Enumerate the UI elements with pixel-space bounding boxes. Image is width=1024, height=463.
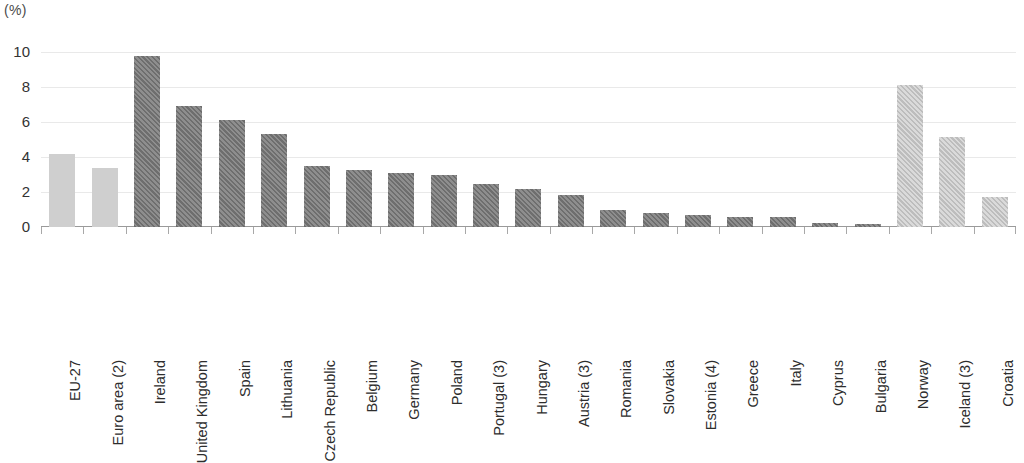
axis-tick [1015,227,1016,234]
axis-tick [295,227,296,234]
axis-tick [465,227,466,234]
category-label: Spain [238,360,253,397]
bar[interactable] [388,173,414,227]
axis-tick [126,227,127,234]
bar-slot [804,52,846,227]
axis-tick [507,227,508,234]
axis-tick [338,227,339,234]
bar[interactable] [727,217,753,228]
bar-slot [168,52,210,227]
x-axis-ticks [41,227,1016,235]
y-axis-tick-label: 8 [2,78,30,95]
category-label: Ireland [153,360,168,404]
axis-tick [762,227,763,234]
axis-tick [719,227,720,234]
category-label: Poland [450,360,465,405]
category-label: Austria (3) [577,360,592,427]
bar[interactable] [92,168,118,227]
axis-tick [380,227,381,234]
category-labels: EU-27Euro area (2)IrelandUnited KingdomS… [41,236,1016,364]
category-label: Iceland (3) [958,360,973,429]
bar[interactable] [304,166,330,227]
y-axis-tick-label: 2 [2,183,30,200]
y-axis-tick-label: 0 [2,218,30,235]
bar-slot [719,52,761,227]
axis-tick [41,227,42,234]
bar-slot [846,52,888,227]
bar[interactable] [176,106,202,227]
axis-tick [634,227,635,234]
category-label: Estonia (4) [704,360,719,430]
category-label: Romania [619,360,634,418]
bar[interactable] [600,210,626,227]
bar-slot [211,52,253,227]
bar-slot [126,52,168,227]
axis-tick [677,227,678,234]
bar-slot [338,52,380,227]
bar[interactable] [770,217,796,227]
axis-tick [550,227,551,234]
bar-slot [253,52,295,227]
axis-tick [592,227,593,234]
bar[interactable] [261,134,287,227]
category-label: Cyprus [831,360,846,406]
bar[interactable] [134,56,160,227]
bar-slot [762,52,804,227]
bar-slot [634,52,676,227]
bar[interactable] [49,154,75,228]
axis-tick [83,227,84,234]
bar-slot [465,52,507,227]
y-axis-tick-label: 4 [2,148,30,165]
bar-slot [380,52,422,227]
bar-slot [974,52,1016,227]
bar-slot [550,52,592,227]
bar-slot [295,52,337,227]
bar[interactable] [219,120,245,227]
bar-slot [677,52,719,227]
bar[interactable] [685,215,711,227]
bar[interactable] [473,184,499,227]
bar[interactable] [515,189,541,227]
bar[interactable] [897,85,923,227]
bar-slot [931,52,973,227]
category-label: Germany [407,360,422,420]
bar-slot [889,52,931,227]
axis-tick [253,227,254,234]
y-axis-tick-label: 6 [2,113,30,130]
bar-series [41,52,1016,227]
bar[interactable] [643,213,669,227]
axis-tick [846,227,847,234]
category-label: Euro area (2) [111,360,126,445]
category-label: EU-27 [68,360,83,401]
category-label: United Kingdom [195,360,210,463]
category-label: Croatia [1001,360,1016,407]
category-label: Greece [746,360,761,408]
category-label: Czech Republic [323,360,338,462]
bar[interactable] [346,170,372,227]
category-label: Norway [916,360,931,409]
bar-slot [41,52,83,227]
bar-slot [592,52,634,227]
category-label: Slovakia [662,360,677,415]
axis-tick [423,227,424,234]
bar[interactable] [982,197,1008,227]
category-label: Lithuania [280,360,295,419]
axis-tick [889,227,890,234]
axis-tick [211,227,212,234]
axis-tick [974,227,975,234]
bar[interactable] [939,137,965,227]
axis-tick [804,227,805,234]
category-label: Bulgaria [874,360,889,413]
y-axis-labels: 0246810 [0,52,30,227]
bar[interactable] [431,175,457,228]
bar-slot [507,52,549,227]
axis-tick [168,227,169,234]
axis-tick [931,227,932,234]
bar-slot [83,52,125,227]
bar[interactable] [558,195,584,227]
plot-area [41,52,1016,227]
y-axis-tick-label: 10 [2,43,30,60]
category-label: Hungary [535,360,550,415]
category-label: Portugal (3) [492,360,507,436]
